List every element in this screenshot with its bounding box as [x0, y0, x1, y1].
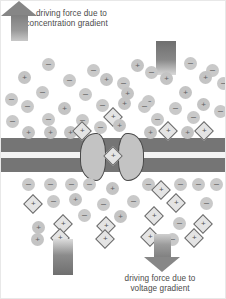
ion-charge-sign: – — [178, 180, 183, 189]
ion-charge-sign: – — [191, 113, 196, 122]
ion-charge-sign: + — [31, 200, 36, 208]
anion-negative: – — [83, 178, 96, 191]
anion-negative: – — [42, 113, 55, 126]
ion-charge-sign: – — [221, 79, 226, 88]
ion-charge-sign: + — [26, 129, 31, 137]
ion-charge-sign: – — [26, 180, 31, 189]
anion-negative: – — [94, 121, 107, 134]
anion-negative: – — [63, 74, 76, 87]
ion-charge-sign: – — [149, 68, 154, 77]
ion-charge-sign: + — [103, 235, 108, 243]
ion-charge-sign: + — [122, 100, 127, 108]
ion-charge-sign: – — [173, 104, 178, 113]
ion-charge-sign: + — [118, 213, 123, 221]
potassium-ion: + — [23, 194, 43, 214]
ion-charge-sign: – — [177, 219, 182, 228]
anion-negative: – — [44, 178, 57, 191]
ion-charge-sign: + — [135, 62, 140, 70]
ion-charge-sign: + — [192, 234, 197, 242]
anion-negative: – — [96, 99, 109, 112]
anion-negative: – — [187, 111, 200, 124]
ion-charge-sign: – — [67, 76, 72, 85]
voltage-gradient-tail-icon — [53, 239, 73, 275]
anion-negative: – — [5, 93, 18, 106]
ion-charge-sign: + — [166, 127, 171, 135]
potassium-ion: + — [166, 193, 186, 213]
ion-charge-sign: + — [185, 129, 190, 137]
ion-charge-sign: – — [204, 199, 209, 208]
anion-negative: – — [65, 178, 78, 191]
ion-charge-sign: – — [87, 180, 92, 189]
ion-charge-sign: + — [164, 75, 169, 83]
cation-positive: + — [44, 126, 57, 139]
anion-negative: – — [42, 58, 55, 71]
cation-positive: + — [160, 72, 173, 85]
cation-positive: + — [58, 102, 71, 115]
ion-charge-sign: – — [146, 180, 151, 189]
ion-charge-sign: + — [152, 212, 157, 220]
cation-positive: + — [197, 98, 210, 111]
anion-negative: – — [145, 66, 158, 79]
cation-positive: + — [131, 59, 144, 72]
ion-charge-sign: – — [48, 180, 53, 189]
ion-charge-sign: – — [100, 101, 105, 110]
ion-charge-sign: – — [51, 197, 56, 206]
ion-charge-sign: + — [159, 186, 164, 194]
ion-charge-sign: + — [36, 224, 41, 232]
ion-charge-sign: – — [155, 115, 160, 124]
cation-positive: + — [69, 193, 82, 206]
ion-charge-sign: + — [80, 127, 85, 135]
anion-negative: – — [151, 113, 164, 126]
ion-charge-sign: – — [188, 59, 193, 68]
ion-charge-sign: + — [104, 76, 109, 84]
ion-charge-sign: + — [111, 152, 116, 160]
ion-charge-sign: – — [69, 180, 74, 189]
ion-charge-sign: – — [142, 102, 147, 111]
arrow-head-down — [144, 257, 180, 272]
ion-charge-sign: + — [73, 196, 78, 204]
anion-negative: – — [138, 100, 151, 113]
cation-positive: + — [106, 182, 119, 195]
anion-negative: – — [97, 198, 110, 211]
ion-charge-sign: + — [48, 129, 53, 137]
ion-charge-sign: – — [91, 66, 96, 75]
arrow-tail — [154, 234, 171, 258]
voltage-gradient-label: driving force due to voltage gradient — [97, 274, 223, 295]
cation-positive: + — [114, 210, 127, 223]
anion-negative: – — [127, 195, 140, 208]
ion-charge-sign: + — [202, 127, 207, 135]
ion-charge-sign: – — [46, 115, 51, 124]
anion-negative: – — [174, 178, 187, 191]
ion-charge-sign: – — [82, 211, 87, 220]
cation-positive: + — [113, 119, 126, 132]
cation-positive: + — [144, 126, 157, 139]
voltage-gradient-label-line1: driving force due to — [97, 274, 223, 284]
anion-negative: – — [22, 178, 35, 191]
cation-positive: + — [118, 97, 131, 110]
anion-negative: – — [169, 102, 182, 115]
ion-charge-sign: + — [62, 105, 67, 113]
voltage-gradient-arrow-icon — [143, 234, 181, 272]
potassium-ion: + — [95, 229, 115, 249]
anion-negative: – — [184, 57, 197, 70]
ion-charge-sign: – — [98, 123, 103, 132]
concentration-gradient-text: concentration gradient — [23, 19, 108, 28]
ion-charge-sign: – — [46, 60, 51, 69]
ion-charge-sign: + — [35, 236, 40, 244]
concentration-gradient-tail-icon — [156, 41, 176, 75]
ion-charge-sign: – — [25, 102, 30, 111]
ion-charge-sign: – — [10, 117, 15, 126]
cation-positive: + — [179, 86, 192, 99]
ion-charge-sign: + — [110, 185, 115, 193]
cation-positive: + — [18, 71, 31, 84]
cation-positive: + — [22, 126, 35, 139]
ion-charge-sign: – — [218, 107, 223, 116]
ion-charge-sign: + — [183, 89, 188, 97]
ion-charge-sign: – — [196, 180, 201, 189]
ion-charge-sign: + — [201, 220, 206, 228]
anion-negative: – — [87, 64, 100, 77]
ion-charge-sign: – — [131, 197, 136, 206]
ion-charge-sign: – — [83, 90, 88, 99]
anion-negative: – — [78, 209, 91, 222]
anion-negative: – — [214, 105, 226, 118]
